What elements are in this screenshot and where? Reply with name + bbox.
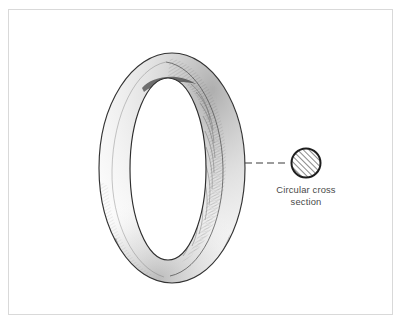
cross-section-circle (292, 149, 321, 178)
cross-section-caption: Circular cross section (254, 184, 358, 208)
torus-shading (90, 45, 260, 295)
figure-root: Circular cross section (0, 0, 402, 327)
torus-group (90, 45, 260, 295)
torus-illustration (0, 0, 402, 327)
torus-hole-outline (130, 78, 206, 260)
